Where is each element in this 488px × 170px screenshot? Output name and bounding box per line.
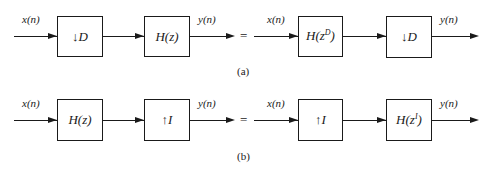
arrowhead-icon [470,117,479,123]
arrowhead-icon [377,33,386,39]
block-label: I [168,112,172,128]
input-label: x(n) [267,13,285,25]
block-label: H(z) [68,112,91,128]
caption-a: (a) [237,65,249,77]
arrowhead-icon [48,117,57,123]
arrowhead-icon [289,33,298,39]
block-label: H(zD) [306,28,335,44]
block-label: I [322,112,326,128]
arrowhead-icon [470,33,479,39]
input-label: x(n) [22,97,40,109]
interpolator-block: ↑I [298,99,343,141]
block-label: D [408,29,417,45]
filter-block: H(z) [57,99,103,141]
filter-block: H(zI) [386,99,432,141]
arrowhead-icon [226,33,235,39]
filter-block: H(z) [144,16,190,57]
caption-b: (b) [237,150,250,162]
arrowhead-icon [135,117,144,123]
arrowhead-icon [377,117,386,123]
input-label: x(n) [267,97,285,109]
output-label: y(n) [198,97,216,109]
arrowhead-icon [226,117,235,123]
interpolator-block: ↑I [144,99,190,141]
arrowhead-icon [289,117,298,123]
decimator-block: ↓D [386,16,432,58]
equals-sign: = [240,28,247,44]
input-label: x(n) [22,13,40,25]
output-label: y(n) [440,97,458,109]
arrowhead-icon [48,33,57,39]
output-label: y(n) [440,13,458,25]
block-label: H(zI) [396,112,422,128]
equals-sign: = [240,112,247,128]
output-label: y(n) [198,13,216,25]
arrowhead-icon [135,33,144,39]
decimator-block: ↓D [57,16,103,57]
filter-block: H(zD) [298,16,343,57]
block-label: H(z) [155,29,178,45]
block-label: D [79,29,88,45]
